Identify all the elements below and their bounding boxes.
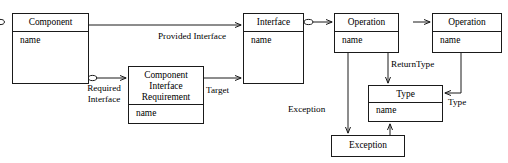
- edge-label-type-association: Type: [448, 97, 466, 108]
- connector-interface-to-operation: [304, 19, 332, 24]
- class-attributes-interface: name: [244, 32, 303, 45]
- class-name-operation-owner: Operation: [335, 14, 398, 32]
- class-box-operation-owner[interactable]: Operation name: [334, 13, 399, 53]
- aggregation-diamond-icon: [88, 75, 96, 80]
- edge-label-target: Target: [206, 85, 229, 96]
- connector-component-to-requirement: [88, 75, 126, 80]
- connector-operation-target-to-type: [445, 53, 461, 93]
- class-box-type[interactable]: Type name: [368, 85, 443, 122]
- aggregation-diamond-icon: [0, 19, 4, 24]
- class-attributes-component: name: [13, 32, 88, 45]
- class-box-component-interface-requirement[interactable]: Component Interface Requirement name: [128, 66, 204, 124]
- edge-label-exception-association: Exception: [288, 104, 325, 115]
- edge-label-return-type: ReturnType: [391, 59, 434, 70]
- edge-label-provided-interface: Provided Interface: [158, 31, 226, 42]
- class-box-exception[interactable]: Exception: [331, 135, 405, 157]
- class-box-interface[interactable]: Interface name: [243, 13, 304, 84]
- class-name-component: Component: [13, 14, 88, 32]
- class-attributes-operation-owner: name: [335, 32, 398, 45]
- class-attributes-operation-target: name: [433, 32, 501, 45]
- class-box-operation-target[interactable]: Operation name: [432, 13, 502, 53]
- class-name-operation-target: Operation: [433, 14, 501, 32]
- edge-label-required-interface: Required Interface: [80, 83, 128, 105]
- class-name-interface: Interface: [244, 14, 303, 32]
- class-attributes-type: name: [369, 103, 442, 115]
- cropped-caption-fragment: [0, 0, 508, 6]
- class-name-component-interface-requirement: Component Interface Requirement: [129, 67, 203, 105]
- uml-class-diagram: Component name Component Interface Requi…: [0, 0, 508, 163]
- aggregation-diamond-icon: [304, 19, 313, 24]
- class-name-type: Type: [369, 86, 442, 103]
- class-box-component[interactable]: Component name: [12, 13, 89, 84]
- class-name-exception: Exception: [332, 136, 404, 158]
- class-attributes-component-interface-requirement: name: [129, 105, 203, 118]
